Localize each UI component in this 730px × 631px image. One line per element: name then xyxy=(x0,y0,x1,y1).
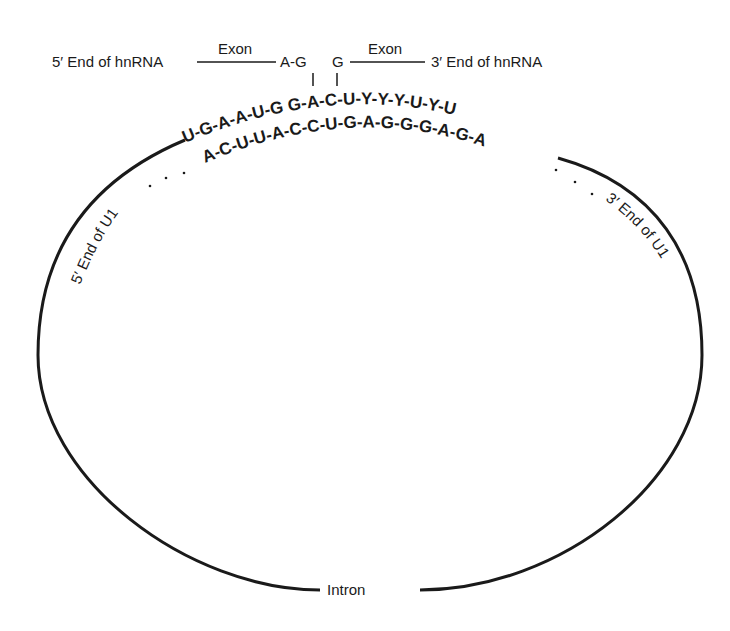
right-junction-label: G xyxy=(332,53,344,70)
left-junction-label: A-G xyxy=(280,53,307,70)
hnrna-5-end-label: 5′ End of hnRNA xyxy=(52,53,163,70)
diagram-svg: 5′ End of hnRNA Exon A-G G Exon 3′ End o… xyxy=(0,0,730,631)
hnrna-strand: 5′ End of hnRNA Exon A-G G Exon 3′ End o… xyxy=(52,40,542,86)
hnrna-3-end-label: 3′ End of hnRNA xyxy=(431,53,542,70)
left-exon-label: Exon xyxy=(218,40,252,57)
left-dots xyxy=(149,172,186,188)
splicing-diagram: 5′ End of hnRNA Exon A-G G Exon 3′ End o… xyxy=(0,0,730,631)
right-dots xyxy=(555,169,594,196)
intron-loop xyxy=(38,140,702,590)
u1-5-end-label: 5′ End of U1 xyxy=(67,205,121,287)
right-exon-label: Exon xyxy=(368,40,402,57)
intron-label: Intron xyxy=(327,581,365,598)
